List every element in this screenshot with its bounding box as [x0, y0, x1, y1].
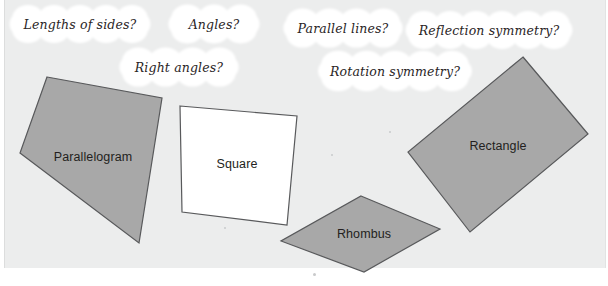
quadrilaterals-layer	[20, 57, 588, 272]
cloud-label: Rotation symmetry?	[330, 64, 460, 79]
shape-label-rectangle: Rectangle	[469, 139, 526, 153]
cloud-label: Angles?	[189, 17, 240, 32]
shape-label-rhombus: Rhombus	[337, 227, 391, 241]
cloud-label: Lengths of sides?	[24, 17, 137, 32]
shape-label-square: Square	[217, 157, 258, 171]
paper-speck	[313, 273, 316, 276]
paper-speck	[331, 154, 333, 156]
cloud-label: Right angles?	[135, 60, 223, 75]
shape-label-parallelogram: Parallelogram	[54, 150, 132, 164]
worksheet-canvas: Lengths of sides?Angles?Parallel lines?R…	[0, 0, 608, 286]
paper-speck	[389, 131, 391, 133]
cloud-label: Parallel lines?	[298, 21, 389, 36]
cloud-label: Reflection symmetry?	[419, 23, 560, 38]
paper-speck	[224, 227, 226, 229]
